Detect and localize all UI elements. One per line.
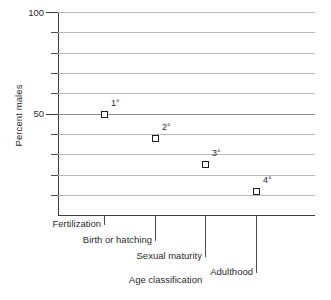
data-point-label-3: 3° bbox=[212, 148, 221, 158]
y-tick-mark-90 bbox=[51, 32, 58, 33]
gridline-90 bbox=[58, 32, 315, 33]
x-axis-baseline bbox=[58, 215, 315, 216]
x-axis-label: Age classification bbox=[0, 274, 331, 285]
data-point-label-1: 1° bbox=[111, 98, 120, 108]
y-tick-mark-100 bbox=[46, 12, 58, 13]
y-tick-mark-20 bbox=[51, 175, 58, 176]
category-leader-sexual-maturity bbox=[205, 216, 206, 257]
gridline-30 bbox=[58, 154, 315, 155]
gridline-10 bbox=[58, 195, 315, 196]
gridline-100 bbox=[58, 12, 315, 13]
category-leader-adulthood bbox=[256, 216, 257, 273]
y-axis-label: Percent males bbox=[13, 61, 24, 171]
category-leader-birth-or-hatching bbox=[155, 216, 156, 241]
gridline-20 bbox=[58, 175, 315, 176]
gridline-50 bbox=[58, 114, 315, 115]
gridline-60 bbox=[58, 93, 315, 94]
data-point-marker-1[interactable] bbox=[101, 111, 108, 118]
category-label-fertilization: Fertilization bbox=[0, 218, 101, 229]
y-tick-mark-40 bbox=[51, 134, 58, 135]
plot-area: 1° 2° 3° 4° bbox=[58, 12, 315, 215]
y-tick-mark-60 bbox=[51, 93, 58, 94]
data-point-label-4: 4° bbox=[263, 175, 272, 185]
y-tick-mark-70 bbox=[51, 73, 58, 74]
data-point-marker-2[interactable] bbox=[152, 135, 159, 142]
y-tick-mark-30 bbox=[51, 154, 58, 155]
gridline-40 bbox=[58, 134, 315, 135]
data-point-label-2: 2° bbox=[162, 122, 171, 132]
y-tick-mark-50 bbox=[46, 114, 58, 115]
y-tick-mark-80 bbox=[51, 53, 58, 54]
gridline-70 bbox=[58, 73, 315, 74]
data-point-marker-4[interactable] bbox=[253, 188, 260, 195]
category-leader-fertilization bbox=[104, 216, 105, 225]
category-label-sexual-maturity: Sexual maturity bbox=[0, 250, 202, 261]
chart-figure: Percent males 100 50 1° 2° 3° 4° bbox=[0, 0, 331, 300]
category-label-birth-or-hatching: Birth or hatching bbox=[0, 234, 152, 245]
gridline-80 bbox=[58, 53, 315, 54]
y-tick-label-100: 100 bbox=[28, 7, 44, 18]
data-point-marker-3[interactable] bbox=[202, 161, 209, 168]
y-tick-mark-10 bbox=[51, 195, 58, 196]
y-tick-label-50: 50 bbox=[33, 108, 44, 119]
